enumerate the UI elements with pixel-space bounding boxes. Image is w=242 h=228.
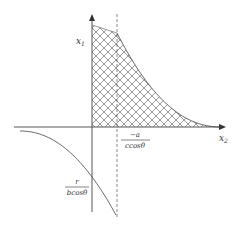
asymptote-denominator: ccosθ [125, 142, 146, 150]
x2-axis-label: x2 [219, 133, 228, 144]
asymptote-numerator: −a [130, 131, 140, 139]
intercept-annotation: r bcosθ [65, 178, 89, 197]
x2-axis-arrow-icon [219, 124, 226, 130]
asymptote-annotation: −a ccosθ [121, 131, 150, 150]
x1-axis-arrow-icon [89, 14, 95, 21]
x1-axis-label: x1 [76, 36, 85, 47]
hatched-feasible-region [92, 25, 222, 127]
intercept-denominator: bcosθ [67, 189, 88, 197]
diagram-canvas: x1 x2 −a ccosθ r bcosθ [0, 0, 242, 228]
lower-left-concave-curve [20, 131, 116, 215]
intercept-numerator: r [75, 178, 79, 186]
